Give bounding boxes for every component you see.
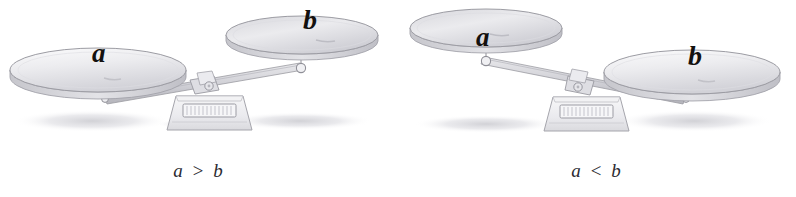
caption-a-less-than-b: a < b (398, 160, 796, 182)
beam-pivot (190, 71, 219, 94)
beam-pivot (565, 69, 594, 95)
scale-base (544, 97, 629, 131)
pan-label-b: b (303, 6, 317, 34)
caption-a-greater-than-b: a > b (0, 160, 398, 182)
scale-figure-a-greater-b: a b a > b (0, 0, 398, 197)
scale-drawing-left (0, 0, 398, 160)
pan-label-b: b (688, 42, 702, 70)
pan-label-a: a (92, 40, 106, 67)
pan-label-a: a (476, 24, 490, 51)
balance-scales-figure: a b a > b (0, 0, 796, 197)
pan-right (226, 16, 378, 60)
scale-base (167, 96, 252, 130)
scale-drawing-right (398, 0, 796, 160)
scale-figure-a-less-b: a b a < b (398, 0, 796, 197)
